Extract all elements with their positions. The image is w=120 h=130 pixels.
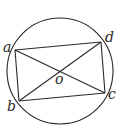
label-b: b: [7, 99, 16, 113]
segment-ba: [15, 50, 19, 101]
label-c: c: [108, 87, 116, 101]
label-o: o: [55, 72, 63, 86]
segment-cb: [19, 93, 105, 101]
segment-ad: [15, 42, 101, 50]
segment-dc: [101, 42, 105, 93]
label-d: d: [105, 30, 114, 44]
geometry-diagram: a b c d o: [0, 0, 120, 130]
label-a: a: [3, 40, 11, 54]
diagram-svg: [0, 0, 120, 130]
